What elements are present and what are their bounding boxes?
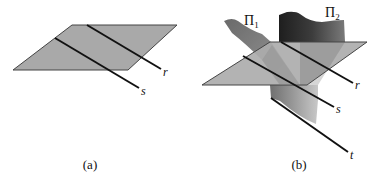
label-t-b: t: [350, 148, 354, 162]
surface-pi2-through-plane: [300, 42, 345, 85]
surface-below: [270, 85, 318, 124]
label-r-b: r: [355, 78, 360, 92]
figure-a: r s (a): [13, 25, 177, 172]
label-s-b: s: [336, 102, 341, 116]
figure-b: Π1 Π2 r s t (b): [202, 5, 367, 172]
label-pi2: Π2: [325, 5, 340, 22]
label-s-a: s: [141, 84, 146, 98]
caption-a: (a): [83, 157, 97, 172]
caption-b: (b): [291, 157, 306, 172]
label-r-a: r: [163, 65, 168, 79]
label-pi1: Π1: [244, 13, 259, 30]
